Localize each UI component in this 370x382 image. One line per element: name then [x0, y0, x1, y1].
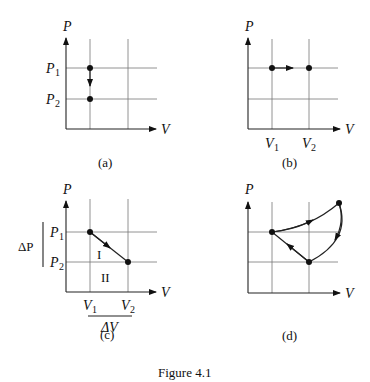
region-2-label: II: [101, 270, 110, 285]
cycle-arrow-ba: [287, 244, 309, 262]
panel-label: (b): [282, 155, 297, 170]
p1-sub: 1: [59, 231, 64, 242]
panel-label: (a): [98, 155, 112, 170]
state-point-a: [269, 229, 275, 235]
panel-a: P V P 1 P 2 (a): [45, 19, 171, 170]
process-arrow: [90, 232, 110, 248]
figure-caption: Figure 4.1: [158, 365, 211, 380]
v2-sub: 2: [311, 142, 316, 153]
state-point-1: [87, 65, 93, 71]
panel-c: P V P 1 P 2 ΔP I II V 1 V 2 ΔV (c): [18, 182, 171, 342]
cycle-path-ac: [272, 203, 339, 232]
y-axis-label: P: [62, 182, 72, 197]
v2-sub: 2: [130, 304, 135, 315]
p2-label: P: [45, 92, 55, 107]
y-axis-label: P: [62, 19, 72, 34]
panel-label: (c): [100, 327, 114, 342]
panel-b: P V V 1 V 2 (b): [244, 19, 355, 170]
cycle-path-cb: [309, 203, 342, 262]
p2-label: P: [49, 255, 59, 270]
delta-p-label: ΔP: [18, 239, 34, 254]
cycle-arrow-ac: [272, 220, 313, 232]
y-axis-label: P: [244, 19, 254, 34]
state-point-c: [336, 200, 342, 206]
x-axis-label: V: [345, 122, 355, 137]
state-point-2: [125, 259, 131, 265]
state-point-2: [87, 96, 93, 102]
p2-sub: 2: [55, 98, 60, 109]
x-axis-label: V: [345, 286, 355, 301]
panel-label: (d): [282, 328, 297, 343]
x-axis-label: V: [161, 285, 171, 300]
state-point-b: [306, 259, 312, 265]
panel-d: P V (d): [244, 182, 355, 343]
cycle-arrow-cb: [335, 203, 341, 240]
p1-sub: 1: [55, 67, 60, 78]
x-axis-label: V: [161, 122, 171, 137]
figure-4-1: P V P 1 P 2 (a) P V V 1 V 2 (b): [0, 0, 370, 382]
p1-label: P: [49, 225, 59, 240]
v1-sub: 1: [92, 304, 97, 315]
v1-sub: 1: [274, 142, 279, 153]
region-1-label: I: [97, 247, 101, 262]
p1-label: P: [45, 61, 55, 76]
p2-sub: 2: [59, 261, 64, 272]
state-point-1: [87, 229, 93, 235]
y-axis-label: P: [244, 182, 254, 197]
state-point-2: [306, 65, 312, 71]
state-point-1: [269, 65, 275, 71]
